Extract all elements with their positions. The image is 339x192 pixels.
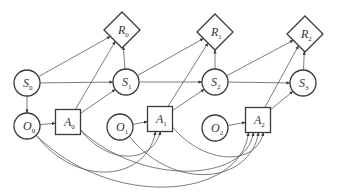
edge-s1-to-r0: [123, 47, 125, 69]
edge-a0-to-r0: [75, 41, 115, 109]
edge-s0-to-r0: [38, 36, 110, 76]
influence-diagram: S0O0A0R0S1O1A1R1S2O2A2R2S3: [0, 0, 339, 192]
node-o2: O2: [202, 115, 228, 141]
edge-a1-to-s2: [173, 89, 205, 110]
edge-a1-to-r1: [168, 43, 208, 107]
node-a1: A1: [148, 107, 173, 132]
edge-s3-to-r2: [304, 51, 305, 70]
node-a0: A0: [56, 110, 81, 135]
edge-s0-to-s1: [40, 82, 113, 83]
node-s1: S1: [113, 69, 139, 95]
edge-o2-to-a2: [228, 122, 246, 125]
node-s3: S3: [290, 70, 316, 96]
node-a2: A2: [246, 108, 271, 133]
edge-o1-to-a2: [129, 133, 259, 175]
node-s0: S0: [14, 70, 40, 96]
nodes-layer: S0O0A0R0S1O1A1R1S2O2A2R2S3: [14, 12, 323, 141]
edge-o1-to-a1: [133, 122, 148, 125]
edge-o0-to-a0: [40, 123, 56, 125]
node-r2: R2: [287, 16, 323, 52]
edge-o0-to-a1: [36, 132, 156, 173]
edge-a0-to-a2: [81, 130, 254, 171]
edge-a0-to-s1: [81, 89, 116, 113]
node-r1: R1: [197, 14, 233, 50]
node-s2: S2: [202, 69, 228, 95]
node-o1: O1: [107, 114, 133, 140]
edge-a2-to-s3: [271, 91, 294, 109]
edge-s1-to-r1: [137, 39, 203, 76]
node-r0: R0: [104, 12, 140, 48]
edge-s2-to-r2: [227, 40, 294, 76]
node-o0: O0: [14, 113, 40, 139]
edge-s2-to-s3: [228, 82, 290, 83]
